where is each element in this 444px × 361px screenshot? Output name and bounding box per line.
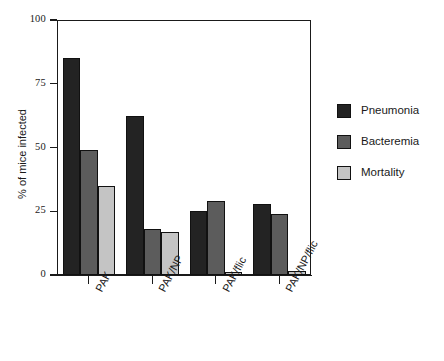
y-tick-mark bbox=[50, 274, 57, 275]
bar bbox=[144, 229, 162, 275]
bar bbox=[253, 204, 271, 275]
legend-label: Mortality bbox=[361, 166, 404, 178]
x-tick-mark bbox=[215, 276, 216, 284]
bar bbox=[80, 150, 98, 275]
legend-label: Pneumonia bbox=[361, 104, 419, 116]
y-tick-mark bbox=[50, 211, 57, 212]
x-tick-mark bbox=[279, 276, 280, 284]
y-axis-line bbox=[57, 20, 58, 276]
legend-label: Bacteremia bbox=[361, 135, 419, 147]
x-tick-mark bbox=[152, 276, 153, 284]
x-tick-mark bbox=[88, 276, 89, 284]
bar bbox=[190, 211, 208, 275]
bar bbox=[271, 214, 289, 275]
y-tick-mark bbox=[50, 83, 57, 84]
y-tick-label: 75 bbox=[6, 77, 46, 88]
bar bbox=[207, 201, 225, 275]
bar bbox=[126, 116, 144, 275]
y-tick-label: 25 bbox=[6, 204, 46, 215]
y-tick-label: 0 bbox=[6, 268, 46, 279]
y-tick-label: 50 bbox=[6, 141, 46, 152]
legend-swatch bbox=[337, 104, 351, 118]
y-tick-mark bbox=[50, 147, 57, 148]
bar bbox=[98, 186, 116, 275]
x-axis-line bbox=[57, 275, 312, 276]
y-tick-mark bbox=[50, 19, 57, 20]
bar bbox=[63, 58, 81, 275]
y-tick-label: 100 bbox=[6, 13, 46, 24]
y-axis-title: % of mice infected bbox=[16, 84, 28, 224]
legend-swatch bbox=[337, 135, 351, 149]
bar-chart: % of mice infected 0255075100 PAKPAK/NPP… bbox=[0, 0, 444, 361]
legend-swatch bbox=[337, 166, 351, 180]
